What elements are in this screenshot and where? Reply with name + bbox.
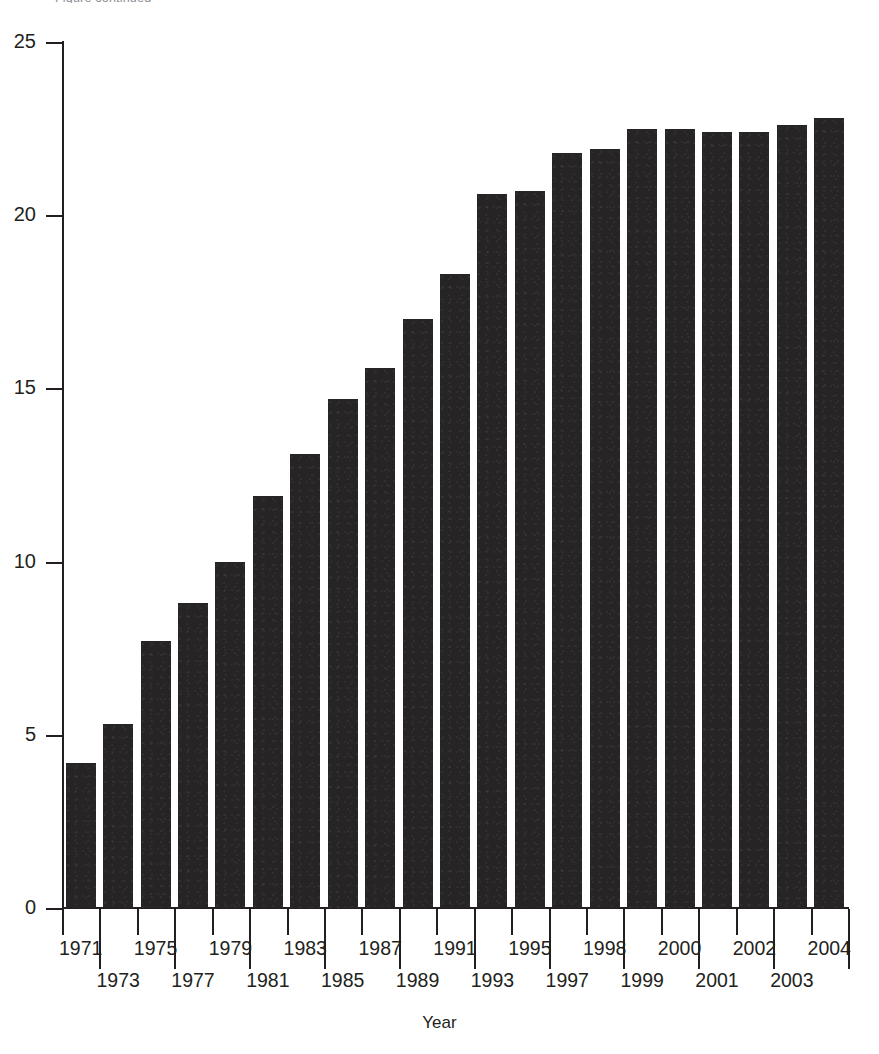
bar [328,399,358,908]
x-axis-tick-label: 2002 [733,937,776,959]
x-tick [736,909,738,935]
y-tick-25: 25 [46,42,62,44]
bar [178,603,208,908]
x-axis-tick-label: 1993 [471,969,514,991]
x-axis-tick-label: 2004 [808,937,851,959]
x-axis-tick-label: 2003 [770,969,813,991]
bar [215,562,245,908]
x-tick [212,909,214,935]
bar [552,153,582,908]
x-tick [361,909,363,935]
x-tick [811,909,813,935]
bar [290,454,320,908]
x-axis-tick-label: 1981 [246,969,289,991]
bar [365,368,395,908]
x-axis-tick-label: 1975 [134,937,177,959]
y-tick-10: 10 [46,562,62,564]
bar [665,129,695,908]
bar [739,132,769,908]
x-axis-tick-label: 1979 [209,937,252,959]
x-tick [511,909,513,935]
x-axis-tick-label: 1991 [433,937,476,959]
bar [590,149,620,908]
bar [627,129,657,908]
x-axis-tick-label: 1987 [358,937,401,959]
x-tick [287,909,289,935]
y-tick-label: 20 [14,204,36,224]
bar [141,641,171,908]
x-axis-tick-label: 1995 [508,937,551,959]
x-axis-tick-label: 1989 [396,969,439,991]
x-axis-tick-label: 1999 [620,969,663,991]
y-tick-20: 20 [46,215,62,217]
y-tick-label: 10 [14,551,36,571]
x-tick [62,909,64,935]
y-tick-5: 5 [46,735,62,737]
x-tick [436,909,438,935]
y-tick-label: 15 [14,377,36,397]
x-axis-tick-label: 1971 [59,937,102,959]
bar [403,319,433,908]
y-tick-label: 5 [25,724,36,744]
x-axis-tick-label: 2001 [695,969,738,991]
bar [440,274,470,908]
bar [814,118,844,908]
bar [515,191,545,908]
cut-off-caption: Figure continued [55,0,415,3]
x-axis-title: Year [0,1013,879,1033]
x-axis-tick-label: 1997 [546,969,589,991]
y-tick-label: 25 [14,31,36,51]
x-axis-tick-label: 1998 [583,937,626,959]
x-axis-tick-label: 1977 [171,969,214,991]
bar [103,724,133,908]
plot-area: 0510152025 [62,42,848,908]
bar-chart: Figure continued 0510152025 197119731975… [0,0,879,1054]
y-tick-15: 15 [46,388,62,390]
x-axis-tick-label: 1985 [321,969,364,991]
x-tick [137,909,139,935]
bar [777,125,807,908]
x-axis-tick-label: 2000 [658,937,701,959]
x-tick [661,909,663,935]
x-axis-tick-label: 1973 [96,969,139,991]
x-tick [586,909,588,935]
bar [253,496,283,908]
y-tick-label: 0 [25,897,36,917]
bar [477,194,507,908]
bar [702,132,732,908]
y-tick-0: 0 [46,908,62,910]
bar [66,763,96,908]
x-axis-tick-label: 1983 [284,937,327,959]
